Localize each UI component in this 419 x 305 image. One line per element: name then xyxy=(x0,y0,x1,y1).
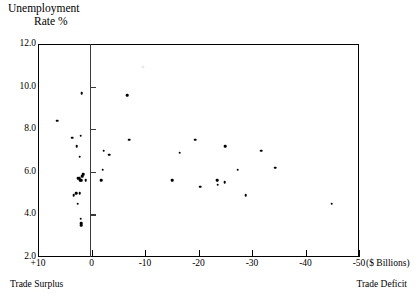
data-point xyxy=(100,179,103,182)
y-axis-tick-mark xyxy=(91,87,96,88)
y-axis-tick-label: 8.0 xyxy=(2,124,36,134)
x-axis-tick-label: -50 xyxy=(353,259,366,269)
data-point xyxy=(171,179,174,182)
data-point xyxy=(78,156,81,159)
x-axis-tick-label: 0 xyxy=(89,259,94,269)
x-axis-tick-mark xyxy=(252,250,253,257)
data-point xyxy=(81,92,84,95)
data-point xyxy=(76,202,79,205)
faint-print-artifact xyxy=(141,66,144,69)
x-axis-tick-mark xyxy=(199,250,200,257)
data-point xyxy=(274,166,277,169)
y-axis-tick-mark xyxy=(91,214,96,215)
x-axis-tick-mark xyxy=(359,250,360,257)
x-axis-tick-mark xyxy=(306,250,307,257)
trade-deficit-note: Trade Deficit xyxy=(356,280,407,290)
x-axis-tick-mark xyxy=(92,250,93,257)
y-axis-tick-label: 4.0 xyxy=(2,209,36,219)
y-axis-tick-mark xyxy=(91,172,96,173)
data-point xyxy=(80,179,83,182)
data-point xyxy=(224,145,227,148)
x-axis-unit-label: ($ Billions) xyxy=(366,259,410,269)
data-point xyxy=(81,175,84,178)
data-point xyxy=(56,119,59,122)
x-axis-tick-mark xyxy=(38,250,39,257)
y-axis-tick-label: 10.0 xyxy=(2,82,36,92)
plot-area xyxy=(38,44,359,257)
y-axis-tick-label: 12.0 xyxy=(2,39,36,49)
x-axis-tick-label: -20 xyxy=(192,259,205,269)
data-point xyxy=(80,134,83,137)
data-point xyxy=(78,192,81,195)
data-point xyxy=(178,151,181,154)
data-point xyxy=(101,168,104,171)
data-point xyxy=(199,185,202,188)
data-point xyxy=(103,149,106,152)
data-point xyxy=(75,145,78,148)
data-point xyxy=(216,183,219,186)
x-axis-tick-label: -40 xyxy=(299,259,312,269)
y-axis-tick-label: 6.0 xyxy=(2,167,36,177)
data-point xyxy=(80,217,83,220)
data-point xyxy=(260,149,263,152)
zero-axis-line xyxy=(90,44,91,257)
data-point xyxy=(80,224,83,227)
data-point xyxy=(223,181,226,184)
data-point xyxy=(71,136,74,139)
data-point xyxy=(128,139,131,142)
data-point xyxy=(126,94,129,97)
data-point xyxy=(330,202,333,205)
x-axis-tick-label: -30 xyxy=(246,259,259,269)
y-axis-tick-mark xyxy=(91,129,96,130)
data-point xyxy=(108,153,111,156)
x-axis-tick-label: -10 xyxy=(139,259,152,269)
x-axis-tick-mark xyxy=(145,250,146,257)
data-point xyxy=(244,194,247,197)
data-point xyxy=(216,179,219,182)
scatter-chart: Unemployment Rate % 12.010.08.06.04.02.0… xyxy=(0,0,419,305)
x-axis-tick-label: +10 xyxy=(31,259,46,269)
data-point xyxy=(194,139,197,142)
data-point xyxy=(73,194,76,197)
data-point xyxy=(236,168,239,171)
data-point xyxy=(84,179,87,182)
trade-surplus-note: Trade Surplus xyxy=(10,280,63,290)
